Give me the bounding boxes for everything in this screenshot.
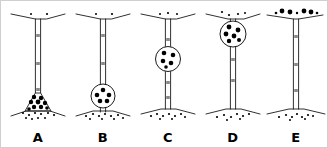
cargo-dot — [105, 99, 110, 104]
cargo-dot — [161, 59, 166, 64]
tube-tick — [166, 96, 170, 99]
free-dot — [168, 113, 170, 115]
panel-b-drawing — [70, 1, 136, 148]
free-dot — [296, 12, 298, 14]
free-dot — [104, 113, 106, 115]
free-dot — [25, 117, 27, 119]
top-branch — [76, 14, 130, 19]
free-dots-top — [275, 9, 319, 15]
free-dot — [110, 115, 112, 117]
top-branch — [267, 15, 323, 19]
cargo-dot — [45, 106, 49, 110]
cargo-dot — [171, 53, 176, 58]
cargo-dot — [227, 39, 231, 43]
free-dot — [101, 118, 103, 120]
free-dot — [171, 118, 173, 120]
tube-tick — [166, 81, 170, 84]
free-dot — [216, 116, 218, 118]
tube-tick — [294, 89, 298, 92]
free-dot — [244, 12, 246, 14]
free-dot — [228, 14, 230, 16]
free-dot — [98, 115, 100, 117]
top-branch — [11, 14, 65, 19]
cargo-dot — [101, 88, 106, 93]
free-dot — [280, 9, 285, 14]
free-dot — [239, 118, 241, 120]
free-dot — [85, 115, 87, 117]
cargo-dot — [162, 51, 167, 56]
free-dot — [301, 116, 303, 118]
free-dots-top — [159, 12, 178, 15]
cargo-dot — [169, 61, 174, 66]
panel-e: E — [263, 1, 328, 148]
free-dot — [159, 118, 161, 120]
free-dots-top — [95, 13, 113, 15]
free-dot — [302, 9, 307, 14]
bottom-branch — [141, 109, 195, 114]
free-dots-bottom — [85, 113, 124, 120]
free-dot — [156, 113, 158, 115]
bottom-branch — [76, 111, 130, 116]
free-dot — [34, 112, 36, 114]
cargo-dot — [232, 34, 237, 39]
free-dot — [275, 12, 278, 15]
free-dot — [278, 116, 280, 118]
free-dot — [288, 10, 293, 15]
tube-tick — [294, 63, 298, 66]
cargo-dot — [237, 38, 241, 42]
panel-e-drawing — [263, 1, 328, 148]
panel-c-drawing — [135, 1, 201, 148]
cargo-dot — [36, 100, 41, 105]
cargo-dot — [227, 25, 232, 30]
tube-tick — [36, 34, 40, 37]
cargo-dot — [236, 28, 241, 33]
free-dot — [230, 116, 232, 118]
free-dot — [22, 112, 24, 114]
cargo-dot — [27, 107, 31, 111]
free-dot — [221, 11, 223, 13]
free-dot — [296, 113, 298, 115]
free-dots-bottom — [216, 113, 250, 121]
cargo-dot — [32, 95, 36, 99]
free-dot — [46, 13, 48, 15]
free-dot — [291, 116, 293, 118]
free-dots-top — [221, 11, 246, 16]
free-dot — [226, 119, 228, 121]
free-dot — [37, 117, 39, 119]
free-dot — [89, 118, 91, 120]
tube-tick — [36, 88, 40, 91]
free-dot — [307, 114, 309, 116]
bottom-branch — [206, 109, 260, 114]
free-dot — [242, 115, 244, 117]
panel-label-d: D — [200, 130, 266, 145]
free-dot — [113, 118, 115, 120]
panel-d: D — [200, 1, 266, 148]
free-dot — [159, 13, 161, 15]
bottom-branch — [11, 111, 65, 116]
free-dot — [30, 13, 32, 15]
free-dot — [28, 114, 30, 116]
free-dots-bottom — [22, 112, 55, 120]
free-dot — [111, 13, 113, 15]
free-dot — [236, 113, 238, 115]
free-dot — [184, 116, 186, 118]
tube-tick — [36, 62, 40, 65]
free-dot — [122, 117, 124, 119]
top-branch — [141, 14, 195, 19]
cargo-dot — [39, 96, 43, 100]
free-dot — [47, 112, 49, 114]
cargo-dot — [107, 93, 112, 98]
tube-tick — [231, 58, 235, 61]
free-dot — [248, 113, 250, 115]
bottom-branch — [267, 109, 325, 114]
free-dot — [53, 114, 55, 116]
free-dot — [117, 114, 119, 116]
free-dot — [31, 118, 33, 120]
free-dot — [304, 118, 306, 120]
free-dot — [309, 10, 314, 15]
panel-label-a: A — [5, 130, 71, 145]
free-dot — [180, 113, 182, 115]
free-dot — [176, 13, 178, 15]
cargo-dot — [98, 99, 103, 104]
free-dot — [289, 119, 291, 121]
